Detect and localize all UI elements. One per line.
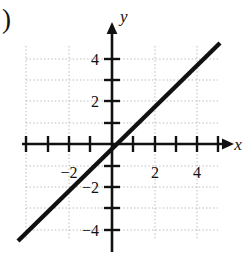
x-tick-label-2: 2 <box>151 164 159 181</box>
x-axis-arrowhead <box>222 139 234 150</box>
x-axis-label: x <box>233 135 242 154</box>
graph-figure: ) <box>0 0 249 256</box>
y-tick-label--2: −2 <box>82 179 99 196</box>
y-tick-label-4: 4 <box>91 51 99 68</box>
y-axis-label: y <box>118 7 128 26</box>
y-tick-label-2: 2 <box>91 93 99 110</box>
y-axis-arrowhead <box>107 22 118 34</box>
y-tick-label--4: −4 <box>82 222 99 239</box>
coordinate-plane: −2 2 4 4 2 −2 −4 y x <box>0 0 249 256</box>
axes <box>22 22 234 252</box>
x-tick-label--2: −2 <box>60 164 77 181</box>
x-tick-label-4: 4 <box>193 164 201 181</box>
